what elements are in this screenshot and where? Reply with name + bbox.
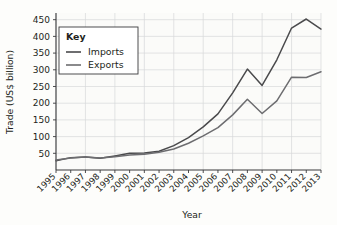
line-chart: 50100150200250300350400450 1995199619971… — [0, 0, 337, 225]
x-tick-labels: 1995199619971998199920002001200220032004… — [35, 171, 323, 194]
y-tick-label: 350 — [33, 48, 50, 58]
legend-title: Key — [66, 31, 86, 42]
chart-container: 50100150200250300350400450 1995199619971… — [0, 0, 337, 225]
y-tick-label: 300 — [33, 65, 50, 75]
x-axis-title: Year — [181, 209, 202, 220]
y-tick-label: 400 — [33, 32, 50, 42]
y-tick-label: 450 — [33, 15, 50, 25]
y-tick-label: 250 — [33, 82, 50, 92]
chart-legend: Key Imports Exports — [59, 27, 138, 74]
y-tick-labels: 50100150200250300350400450 — [33, 15, 50, 159]
y-axis-title: Trade (US$ billion) — [4, 50, 15, 135]
legend-label-exports: Exports — [88, 59, 124, 70]
legend-label-imports: Imports — [88, 46, 124, 57]
y-tick-label: 150 — [33, 115, 50, 125]
y-tick-label: 50 — [39, 149, 51, 159]
y-tick-label: 100 — [33, 132, 50, 142]
y-tick-label: 200 — [33, 98, 50, 108]
